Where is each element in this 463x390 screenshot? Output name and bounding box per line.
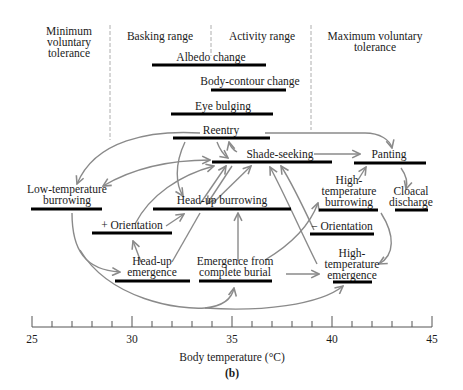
zone-activity: Activity range	[229, 30, 295, 43]
behavior-head-up-burrowing: Head-up burrowing	[153, 194, 291, 209]
arrow-high-emergence-to-shade	[270, 167, 317, 264]
arrow-low-burrowing-to-high-emergence	[205, 286, 343, 309]
arrow-shade-to-reentry	[229, 142, 237, 152]
behavior-label: burrowing	[325, 196, 373, 209]
behavior-high-temperature-emergence: High- temperature emergence	[325, 247, 380, 282]
arrow-reentry-to-panting	[265, 133, 392, 148]
tick-label-35: 35	[226, 333, 238, 345]
behavior-label: discharge	[389, 196, 433, 209]
behavior-label: emergence	[327, 269, 377, 282]
behavior-eye-bulging: Eye bulging	[171, 100, 273, 114]
behavior-label: Panting	[371, 148, 406, 161]
behavior-panting: Panting	[354, 148, 426, 163]
zone-basking: Basking range	[127, 30, 193, 43]
behavior-label: emergence	[127, 266, 177, 279]
behavior-plus-orientation: + Orientation	[92, 219, 172, 233]
behavior-minus-orientation: − Orientation	[310, 220, 374, 234]
arrow-reentry-to-headup-burrowing	[177, 142, 185, 196]
behavior-label: Head-up burrowing	[177, 194, 268, 207]
behavior-label: Shade-seeking	[246, 148, 313, 161]
behavior-high-temperature-burrowing: High- temperature burrowing	[319, 174, 378, 210]
arrow-high-burrowing-to-high-emergence	[379, 213, 391, 264]
behavior-label: Reentry	[203, 124, 240, 137]
panel-label: (b)	[225, 367, 239, 380]
arrow-reentry-to-shade	[217, 142, 228, 158]
axis-ticks	[32, 316, 432, 327]
behavior-albedo-change: Albedo change	[152, 51, 266, 65]
zone-min-line3: tolerance	[48, 47, 90, 59]
behavior-emergence-from-burial: Emergence from complete burial	[197, 255, 274, 281]
x-axis-title: Body temperature (°C)	[179, 351, 285, 364]
x-axis: 25 30 35 40 45 Body temperature (°C) (b)	[26, 316, 438, 380]
tick-label-40: 40	[326, 333, 338, 345]
arrow-reentry-to-low-burrowing	[77, 133, 200, 184]
behavior-body-contour-change: Body-contour change	[200, 75, 299, 90]
tick-label-25: 25	[26, 333, 38, 345]
thermoregulation-diagram: Minimum voluntary tolerance Basking rang…	[0, 0, 463, 390]
behavior-label: + Orientation	[101, 219, 163, 231]
behavior-label: Body-contour change	[200, 75, 299, 88]
behavior-label: complete burial	[199, 266, 271, 279]
tick-label-30: 30	[126, 333, 138, 345]
behavior-label: burrowing	[43, 194, 91, 207]
arrow-plusorient-to-headup	[166, 214, 184, 226]
behavior-low-temperature-burrowing: Low-temperature burrowing	[27, 183, 107, 209]
zone-max-line2: tolerance	[354, 41, 396, 53]
behavior-reentry: Reentry	[173, 124, 270, 138]
behavior-shade-seeking: Shade-seeking	[212, 148, 332, 162]
behavior-head-up-emergence: Head-up emergence	[115, 255, 190, 281]
behavior-label: Eye bulging	[195, 100, 251, 113]
behavior-label: − Orientation	[311, 220, 373, 232]
behavior-cloacal-discharge: Cloacal discharge	[389, 185, 433, 210]
tick-label-45: 45	[426, 333, 438, 345]
behavior-label: Albedo change	[176, 51, 245, 64]
